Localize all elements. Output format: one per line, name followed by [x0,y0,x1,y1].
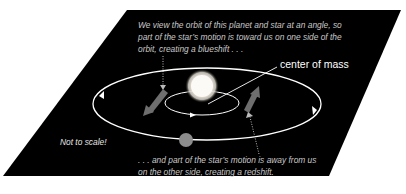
star-core [191,75,213,97]
doppler-diagram: We view the orbit of this planet and sta… [0,0,406,194]
scale-note: Not to scale! [60,137,107,147]
top-caption-line-1: We view the orbit of this planet and sta… [138,20,342,30]
bottom-caption-line-2: on the other side, creating a redshift. [138,167,274,177]
center-of-mass-label: center of mass [280,58,349,70]
planet [179,133,193,147]
bottom-caption-line-1: . . . and part of the star’s motion is a… [138,155,317,165]
top-caption-line-2: part of the star’s motion is toward us o… [137,32,342,42]
top-caption-line-3: orbit, creating a blueshift . . . [138,44,243,54]
